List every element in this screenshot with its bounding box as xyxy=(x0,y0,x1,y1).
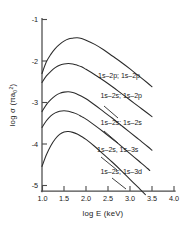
x-tick-label: 2.5 xyxy=(103,194,113,203)
x-tick-label: 2.0 xyxy=(81,194,91,203)
x-tick-label: 3.0 xyxy=(125,194,135,203)
cross-section-line-chart: -1 -2 -3 -4 -5 1.0 1.5 2.0 2.5 3.0 3.5 4… xyxy=(0,0,191,233)
y-axis-title-suffix: ) xyxy=(8,83,17,86)
x-axis-ticks xyxy=(43,186,175,191)
curve-label-4: 1s–2s, 1s–3s xyxy=(97,146,139,154)
x-tick-label: 1.5 xyxy=(59,194,69,203)
curve-labels: 1s–2p; 1s–2p1s–2s; 1s–2p1s–2s; 1s–2s1s–2… xyxy=(97,72,142,176)
x-tick-label: 1.0 xyxy=(38,194,48,203)
y-tick-label: -1 xyxy=(32,15,38,24)
svg-text:log σ (πa02): log σ (πa02) xyxy=(8,83,18,126)
y-tick-label: -4 xyxy=(32,140,38,149)
x-axis-tick-labels: 1.0 1.5 2.0 2.5 3.0 3.5 4.0 xyxy=(38,194,179,203)
x-tick-label: 4.0 xyxy=(169,194,179,203)
y-tick-label: -5 xyxy=(32,181,38,190)
y-axis-title: log σ (πa02) xyxy=(8,83,18,126)
x-tick-label: 3.5 xyxy=(147,194,157,203)
curve-label-2: 1s–2s; 1s–2p xyxy=(100,92,142,100)
chart-figure: -1 -2 -3 -4 -5 1.0 1.5 2.0 2.5 3.0 3.5 4… xyxy=(0,0,191,233)
y-tick-label: -3 xyxy=(32,98,38,107)
y-axis-title-prefix: log σ ( xyxy=(8,103,17,127)
y-axis-tick-labels: -1 -2 -3 -4 -5 xyxy=(32,15,38,190)
y-tick-label: -2 xyxy=(32,57,38,66)
curve-series-5 xyxy=(42,132,145,195)
curve-label-1: 1s–2p; 1s–2p xyxy=(98,72,140,80)
x-axis-title: log E (keV) xyxy=(83,209,124,218)
curve-label-5: 1s–2s; 1s–3d xyxy=(100,168,142,176)
curve-label-3: 1s–2s; 1s–2s xyxy=(101,119,143,127)
